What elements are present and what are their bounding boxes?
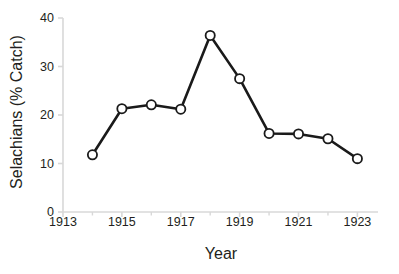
data-line: [92, 35, 357, 158]
data-point-marker: [294, 129, 303, 138]
axis-lines: [63, 18, 378, 212]
data-point-marker: [117, 104, 126, 113]
data-point-marker: [353, 154, 362, 163]
data-point-marker: [264, 129, 273, 138]
axis-ticks: [58, 18, 357, 217]
data-polyline: [92, 35, 357, 158]
x-axis-title: Year: [63, 245, 379, 263]
plot-area: [0, 0, 399, 274]
data-point-marker: [147, 100, 156, 109]
data-point-marker: [235, 74, 244, 83]
data-point-marker: [88, 150, 97, 159]
data-point-marker: [206, 31, 215, 40]
chart-container: Selachians (% Catch) 010203040 191319151…: [0, 0, 399, 274]
data-point-marker: [323, 134, 332, 143]
data-point-marker: [176, 105, 185, 114]
data-markers: [88, 31, 362, 163]
